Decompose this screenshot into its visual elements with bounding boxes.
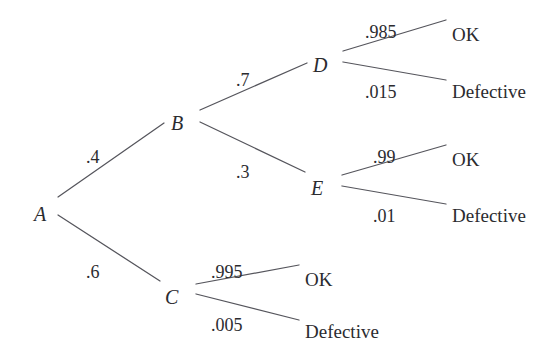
- tree-node-c: C: [165, 287, 179, 307]
- branch-probability-b-d: .7: [236, 71, 250, 89]
- branch-probability-d-ok: .985: [365, 23, 397, 41]
- tree-branch-b-e: [200, 122, 305, 172]
- probability-tree-diagram: ABCDE .4.6.7.3.985.015.99.01.995.005 OKD…: [0, 0, 559, 344]
- tree-node-d: D: [313, 55, 328, 75]
- branch-probability-b-e: .3: [236, 163, 250, 181]
- tree-outcome-c-defective: Defective: [305, 322, 379, 341]
- branch-probability-c-ok: .995: [211, 263, 243, 281]
- branch-probability-d-defective: .015: [365, 83, 397, 101]
- branch-probability-e-ok: .99: [373, 148, 396, 166]
- tree-branch-a-c: [58, 215, 160, 281]
- tree-outcome-c-ok: OK: [305, 270, 332, 289]
- tree-outcome-d-ok: OK: [452, 25, 479, 44]
- tree-node-b: B: [171, 113, 183, 133]
- branch-probability-c-defective: .005: [211, 316, 243, 334]
- tree-branch-d-defective: [343, 62, 446, 80]
- tree-outcome-d-defective: Defective: [452, 82, 526, 101]
- tree-node-a: A: [34, 204, 46, 224]
- tree-outcome-e-ok: OK: [452, 150, 479, 169]
- branch-probability-a-c: .6: [86, 263, 100, 281]
- tree-branch-e-defective: [342, 186, 446, 204]
- tree-node-e: E: [311, 178, 323, 198]
- branch-probability-e-defective: .01: [373, 207, 396, 225]
- tree-branch-a-b: [58, 123, 164, 197]
- tree-branch-lines: [0, 0, 559, 344]
- tree-outcome-e-defective: Defective: [452, 206, 526, 225]
- tree-branch-b-d: [200, 63, 307, 110]
- branch-probability-a-b: .4: [86, 148, 100, 166]
